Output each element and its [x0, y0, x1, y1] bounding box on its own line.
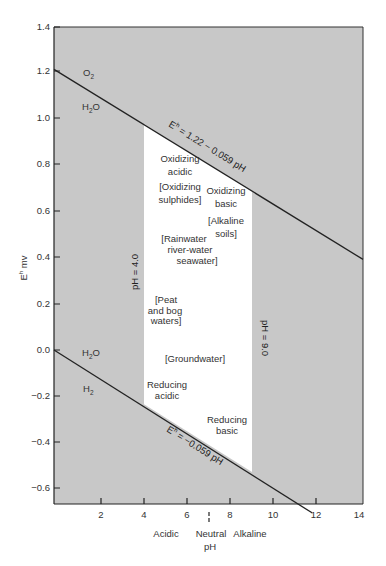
x-axis-title: pH: [204, 541, 216, 552]
svg-text:acidic: acidic: [155, 390, 180, 401]
svg-text:soils]: soils]: [215, 228, 237, 239]
ph-4-boundary-label: pH = 4.0: [129, 254, 140, 290]
x-neutral-label: Neutral: [196, 528, 227, 539]
eh-ph-diagram: 1.4 1.2 1.0 0.8 0.6 0.4 0.2 0.0 −0.2 −0.…: [0, 0, 386, 566]
svg-text:[Peat: [Peat: [155, 294, 178, 305]
y-tick-labels: 1.4 1.2 1.0 0.8 0.6 0.4 0.2 0.0 −0.2 −0.…: [31, 21, 50, 493]
svg-text:[Rainwater: [Rainwater: [161, 233, 206, 244]
x-acidic-label: Acidic: [153, 528, 179, 539]
y-tick-label: 0.4: [37, 251, 50, 262]
svg-text:seawater]: seawater]: [176, 255, 217, 266]
x-tick-labels: 2 4 6 8 10 12 14: [98, 509, 364, 520]
x-tick-label: 10: [268, 509, 279, 520]
y-tick-label: 0.2: [37, 298, 50, 309]
x-tick-label: 12: [311, 509, 322, 520]
svg-text:waters]: waters]: [150, 315, 182, 326]
x-tick-label: 6: [184, 509, 189, 520]
x-alkaline-label: Alkaline: [233, 528, 266, 539]
y-tick-label: 1.2: [37, 65, 50, 76]
svg-text:basic: basic: [216, 425, 238, 436]
ph-9-boundary-label: pH = 9.0: [260, 320, 271, 356]
svg-text:acidic: acidic: [168, 166, 193, 177]
y-tick-label: −0.4: [31, 436, 50, 447]
svg-text:sulphides]: sulphides]: [159, 194, 202, 205]
x-tick-label: 4: [141, 509, 146, 520]
x-tick-label: 8: [227, 509, 232, 520]
svg-text:Reducing: Reducing: [207, 414, 247, 425]
y-tick-label: 0.8: [37, 158, 50, 169]
y-tick-label: −0.6: [31, 482, 50, 493]
svg-text:Oxidizing: Oxidizing: [206, 185, 245, 196]
y-tick-label: 1.0: [37, 112, 50, 123]
y-tick-label: −0.2: [31, 390, 50, 401]
y-tick-label: 1.4: [37, 21, 50, 32]
svg-text:basic: basic: [215, 198, 237, 209]
svg-text:[Alkaline: [Alkaline: [208, 215, 244, 226]
x-tick-label: 2: [98, 509, 103, 520]
x-tick-label: 14: [354, 509, 365, 520]
y-tick-label: 0.0: [37, 344, 50, 355]
svg-text:[Oxidizing: [Oxidizing: [159, 181, 201, 192]
svg-text:Oxidizing: Oxidizing: [160, 153, 199, 164]
region-groundwater: [Groundwater]: [165, 353, 225, 364]
svg-text:river-water: river-water: [168, 244, 213, 255]
y-axis-title: Eh mv: [18, 255, 29, 280]
svg-text:Reducing: Reducing: [147, 379, 187, 390]
y-tick-label: 0.6: [37, 205, 50, 216]
